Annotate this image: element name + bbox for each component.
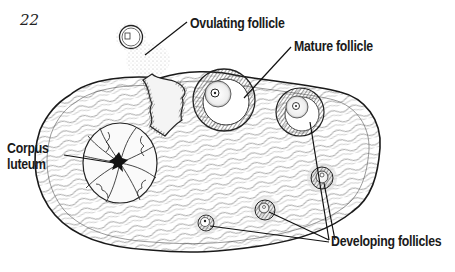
label-corpus-luteum-line1: Corpus — [7, 140, 49, 156]
label-developing-follicles: Developing follicles — [331, 233, 441, 249]
ovary-diagram: 22 Ovulating follicle Mature follicle Co… — [0, 0, 455, 272]
developing-follicle-middle — [251, 196, 279, 224]
label-corpus-luteum: Corpus luteum — [7, 140, 49, 172]
mature-follicle — [193, 69, 255, 131]
label-corpus-luteum-line2: luteum — [7, 156, 49, 172]
corpus-luteum — [83, 123, 157, 203]
secondary-follicle — [276, 88, 324, 136]
ovary-illustration — [0, 0, 455, 272]
developing-follicle-right — [307, 163, 337, 193]
ovulating-follicle — [115, 22, 170, 78]
label-mature-follicle: Mature follicle — [294, 38, 373, 54]
page-number: 22 — [20, 11, 39, 29]
label-ovulating-follicle: Ovulating follicle — [190, 15, 285, 31]
developing-follicle-left — [194, 211, 218, 235]
